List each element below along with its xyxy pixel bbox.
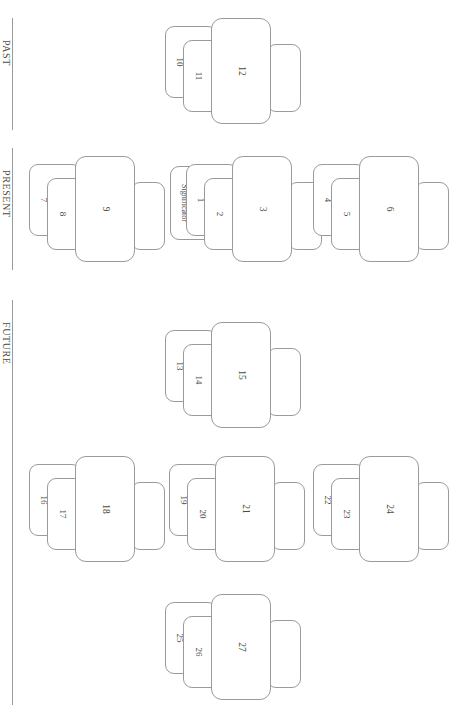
card-label: 20 [198,510,207,519]
card-label: 26 [194,648,203,657]
card-back-peek[interactable] [415,182,449,250]
card-back-peek[interactable] [131,482,165,550]
card-27[interactable]: 27 [211,594,271,700]
card-label: 17 [58,510,67,519]
card-back-peek[interactable] [271,482,305,550]
card-label: 9 [100,207,110,212]
group-present-left: 789 [27,152,167,277]
card-3[interactable]: 3 [232,156,292,262]
card-6[interactable]: 6 [359,156,419,262]
card-label: 6 [384,207,394,212]
card-15[interactable]: 15 [211,322,271,428]
card-back-peek[interactable] [267,620,301,688]
card-label: 15 [236,370,246,380]
group-future-top: 131415 [163,318,303,443]
spread-canvas: PASTPRESENTFUTURE 101112789Significator1… [0,0,460,718]
group-future-right: 222324 [311,452,451,577]
group-future-center: 192021 [167,452,307,577]
group-present-right: 456 [311,152,451,277]
group-future-bottom: 252627 [163,590,303,715]
section-label-future: FUTURE [1,322,12,365]
card-label: 14 [194,376,203,385]
card-label: 23 [342,510,351,519]
card-12[interactable]: 12 [211,18,271,124]
section-divider-past [12,18,13,130]
card-18[interactable]: 18 [75,456,135,562]
group-future-left: 161718 [27,452,167,577]
card-label: 8 [58,212,67,217]
card-label: 3 [257,207,267,212]
section-divider-future [12,300,13,705]
section-label-present: PRESENT [1,170,12,218]
card-back-peek[interactable] [131,182,165,250]
group-past-center: 101112 [163,14,303,139]
group-present-center: Significator123 [184,152,324,277]
card-24[interactable]: 24 [359,456,419,562]
card-back-peek[interactable] [267,44,301,112]
card-21[interactable]: 21 [215,456,275,562]
section-label-past: PAST [1,40,12,66]
card-label: 27 [236,642,246,652]
card-label: 2 [215,212,224,217]
card-label: 24 [384,504,394,514]
section-divider-present [12,148,13,270]
card-label: 11 [194,72,203,81]
card-label: 18 [100,504,110,514]
card-back-peek[interactable] [267,348,301,416]
card-label: 21 [240,504,250,514]
card-label: 12 [236,66,246,76]
card-label: 5 [342,212,351,217]
card-9[interactable]: 9 [75,156,135,262]
card-back-peek[interactable] [415,482,449,550]
